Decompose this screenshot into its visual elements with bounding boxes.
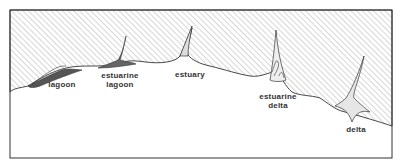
land-area xyxy=(10,10,392,126)
label-estuarine-delta: estuarine delta xyxy=(256,92,300,110)
label-estuary: estuary xyxy=(170,70,210,79)
label-lagoon: lagoon xyxy=(42,80,82,89)
label-estuarine-lagoon: estuarine lagoon xyxy=(98,71,142,89)
label-delta: delta xyxy=(338,125,374,134)
